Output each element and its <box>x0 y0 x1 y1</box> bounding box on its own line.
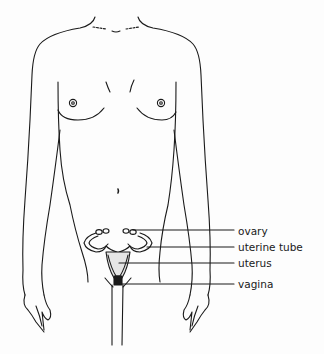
left-shoulder-arm-outer <box>23 17 95 295</box>
label-ovary: ovary <box>238 225 268 237</box>
right-torso-side <box>159 82 176 282</box>
label-vagina: vagina <box>238 278 273 290</box>
label-uterus: uterus <box>238 257 272 269</box>
body-outline-drawing <box>0 0 324 354</box>
left-torso-side <box>58 82 88 282</box>
anatomy-diagram: ovary uterine tube uterus vagina <box>0 0 324 354</box>
label-uterine-tube: uterine tube <box>238 241 303 253</box>
